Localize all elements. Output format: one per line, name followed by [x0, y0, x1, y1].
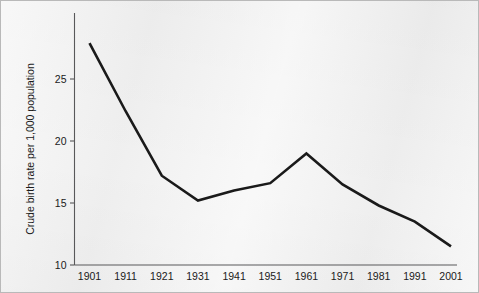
line-chart-plot: Crude birth rate per 1,000 population 10…: [1, 1, 479, 293]
birth-rate-line-series: [90, 43, 452, 246]
x-axis-tick-label: 1941: [222, 270, 246, 282]
x-axis-tick-label: 1991: [403, 270, 427, 282]
y-axis-title: Crude birth rate per 1,000 population: [24, 63, 36, 235]
x-axis-tick-label: 1901: [78, 270, 102, 282]
x-axis-tick-label: 1921: [150, 270, 174, 282]
y-axis-tick-label: 25: [55, 73, 67, 85]
x-axis-tick-label: 1911: [114, 270, 137, 282]
x-axis-tick-label: 1971: [331, 270, 355, 282]
x-axis-tick-label: 1951: [259, 270, 283, 282]
x-axis-tick-label: 2001: [439, 270, 463, 282]
y-axis-tick-marks: [70, 79, 75, 265]
x-axis-tick-label: 1931: [186, 270, 210, 282]
x-axis-tick-label: 1961: [295, 270, 319, 282]
y-axis-tick-labels: 10152025: [55, 73, 67, 271]
y-axis-tick-label: 15: [55, 197, 67, 209]
chart-figure: Crude birth rate per 1,000 population 10…: [0, 0, 479, 293]
y-axis-tick-label: 20: [55, 135, 67, 147]
x-axis-tick-labels: 1901191119211931194119511961197119811991…: [78, 270, 463, 282]
y-axis-tick-label: 10: [55, 259, 67, 271]
x-axis-tick-label: 1981: [367, 270, 391, 282]
